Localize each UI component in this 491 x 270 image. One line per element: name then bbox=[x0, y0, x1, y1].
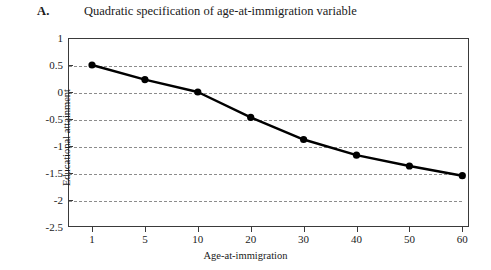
y-axis-tick-mark bbox=[68, 173, 73, 174]
gridline bbox=[69, 147, 462, 148]
figure-panel: A. Quadratic specification of age-at-imm… bbox=[0, 0, 491, 270]
x-axis-tick-mark bbox=[251, 227, 252, 232]
x-axis-tick-label: 5 bbox=[142, 233, 148, 245]
x-axis-tick-label: 30 bbox=[298, 233, 309, 245]
y-axis-tick-mark bbox=[68, 119, 73, 120]
gridline bbox=[69, 66, 462, 67]
x-axis-tick-mark bbox=[409, 227, 410, 232]
y-axis-tick-label: 1 bbox=[58, 32, 64, 44]
panel-letter: A. bbox=[37, 4, 50, 19]
gridline bbox=[69, 201, 462, 202]
x-axis-tick-label: 1 bbox=[89, 233, 95, 245]
x-axis-tick-label: 20 bbox=[245, 233, 256, 245]
plot-area bbox=[68, 38, 469, 227]
x-axis-tick-label: 50 bbox=[404, 233, 415, 245]
y-axis-tick-mark bbox=[68, 92, 73, 93]
x-axis-tick-mark bbox=[304, 227, 305, 232]
x-axis-tick-mark bbox=[145, 227, 146, 232]
y-axis-tick-label: -2.5 bbox=[46, 221, 63, 233]
chart-title: Quadratic specification of age-at-immigr… bbox=[84, 4, 357, 19]
x-axis-tick-mark bbox=[357, 227, 358, 232]
gridline bbox=[69, 174, 462, 175]
x-axis-label: Age-at-immigration bbox=[0, 250, 491, 261]
y-axis-tick-mark bbox=[68, 200, 73, 201]
x-axis-tick-mark bbox=[198, 227, 199, 232]
x-axis-tick-mark bbox=[92, 227, 93, 232]
x-axis-tick-mark bbox=[462, 227, 463, 232]
x-axis-tick-label: 10 bbox=[192, 233, 203, 245]
x-axis-tick-label: 60 bbox=[457, 233, 468, 245]
gridline bbox=[69, 120, 462, 121]
x-axis-tick-label: 40 bbox=[351, 233, 362, 245]
y-axis-tick-mark bbox=[68, 65, 73, 66]
y-axis-label: Educational attainment bbox=[61, 58, 72, 218]
y-axis-tick-mark bbox=[68, 146, 73, 147]
gridline bbox=[69, 93, 462, 94]
gridlines-layer bbox=[69, 39, 468, 226]
y-axis-label-wrapper: Educational attainment bbox=[36, 38, 48, 227]
